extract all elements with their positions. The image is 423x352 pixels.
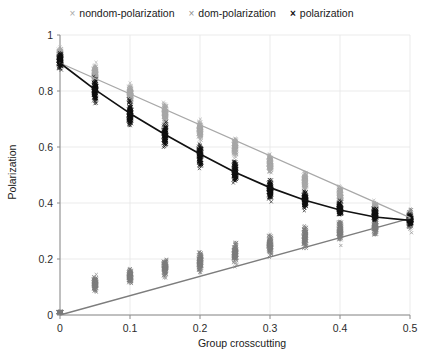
svg-text:0.5: 0.5	[403, 322, 418, 334]
scatter-plot: 00.20.40.60.8100.10.20.30.40.5 Group cro…	[0, 0, 423, 352]
chart-container: × nondom-polarization × dom-polarization…	[0, 0, 423, 352]
svg-text:0.2: 0.2	[193, 322, 208, 334]
x-axis-title: Group crosscutting	[198, 337, 286, 349]
svg-text:0.4: 0.4	[38, 197, 53, 209]
svg-text:1: 1	[47, 29, 53, 41]
svg-text:0: 0	[57, 322, 63, 334]
svg-text:0.2: 0.2	[38, 253, 53, 265]
y-axis-title: Polarization	[6, 144, 18, 199]
svg-text:0.8: 0.8	[38, 85, 53, 97]
trend-lines	[60, 63, 410, 315]
svg-text:0.1: 0.1	[123, 322, 138, 334]
svg-text:0.4: 0.4	[333, 322, 348, 334]
svg-text:0.3: 0.3	[263, 322, 278, 334]
svg-text:0: 0	[47, 309, 53, 321]
svg-text:0.6: 0.6	[38, 141, 53, 153]
